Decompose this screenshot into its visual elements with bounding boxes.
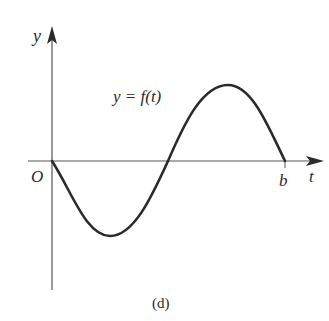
figure-d: y t O b y = f(t) (d) (0, 0, 329, 321)
t-axis-label: t (309, 168, 314, 185)
b-label: b (279, 172, 288, 189)
origin-label: O (31, 168, 43, 185)
y-axis-label: y (33, 27, 41, 45)
figure-caption: (d) (152, 296, 170, 311)
curve-label: y = f(t) (113, 88, 161, 105)
graph-canvas (0, 0, 329, 321)
